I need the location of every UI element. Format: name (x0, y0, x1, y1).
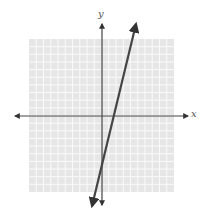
coordinate-plane (0, 0, 204, 218)
y-axis-label: y (98, 8, 104, 19)
x-axis-label: x (191, 108, 197, 119)
